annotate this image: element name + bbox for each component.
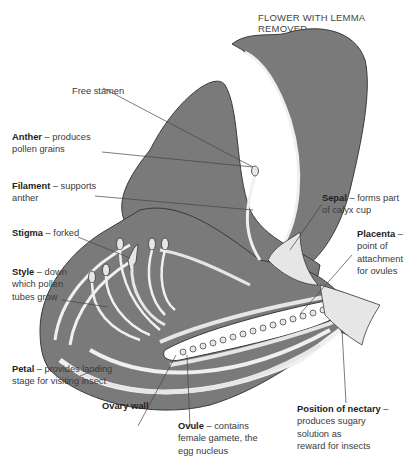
label-free-stamen: Free stamen	[72, 85, 124, 97]
label-ovule: Ovule – contains female gamete, the egg …	[178, 420, 258, 457]
label-anther: Anther – produces pollen grains	[12, 131, 91, 156]
label-nectary: Position of nectary – produces sugary so…	[297, 403, 388, 453]
label-sepal: Sepal – forms part of calyx cup	[322, 192, 399, 217]
label-filament: Filament – supports anther	[12, 180, 96, 205]
label-placenta: Placenta – point of attachment for ovule…	[357, 228, 403, 278]
label-style: Style – down which pollen tubes grow	[12, 266, 67, 303]
label-ovary-wall: Ovary wall	[102, 400, 149, 412]
label-stigma: Stigma – forked	[12, 227, 79, 239]
label-petal: Petal – provides landing stage for visit…	[12, 363, 112, 388]
